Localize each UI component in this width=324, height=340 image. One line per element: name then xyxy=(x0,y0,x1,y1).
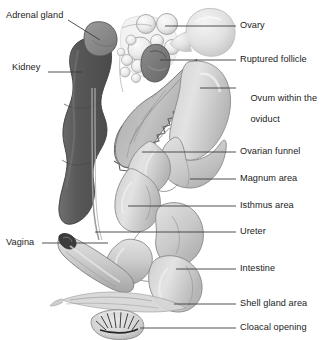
label-intestine: Intestine xyxy=(240,263,275,274)
ruptured-follicle-shape xyxy=(141,44,170,82)
follicle xyxy=(132,74,141,83)
ovum-group xyxy=(170,8,235,56)
label-ovarian-funnel: Ovarian funnel xyxy=(240,146,300,157)
label-isthmus-area: Isthmus area xyxy=(240,200,294,211)
label-magnum-area: Magnum area xyxy=(240,173,297,184)
label-ovum-within-the-oviduct: Ovum within the oviduct xyxy=(240,82,317,135)
ruptured-follicle-group xyxy=(141,44,170,82)
diagram-artwork xyxy=(0,0,324,340)
label-ovum-line-1: Ovum within the xyxy=(250,93,317,103)
follicle xyxy=(117,48,125,56)
mesentery-tip xyxy=(50,299,63,306)
follicle xyxy=(157,14,178,35)
follicle xyxy=(126,35,136,45)
anatomical-diagram: Adrenal gland Kidney Vagina Ovary Ruptur… xyxy=(0,0,324,340)
ovum-sphere xyxy=(186,8,235,56)
label-vagina: Vagina xyxy=(6,237,34,248)
follicle xyxy=(120,67,130,77)
kidney-group xyxy=(59,22,117,225)
label-ruptured-follicle: Ruptured follicle xyxy=(240,54,307,65)
label-cloacal-opening: Cloacal opening xyxy=(240,322,307,333)
follicle xyxy=(122,55,133,66)
label-ovary: Ovary xyxy=(240,20,265,31)
label-ovum-line-2: oviduct xyxy=(250,114,279,124)
label-shell-gland-area: Shell gland area xyxy=(240,298,307,309)
label-adrenal-gland: Adrenal gland xyxy=(6,10,63,21)
label-kidney: Kidney xyxy=(12,62,40,73)
adrenal-gland-shape xyxy=(84,22,117,56)
kidney-shape xyxy=(59,37,112,224)
cloacal-opening-group xyxy=(91,310,144,340)
label-ureter: Ureter xyxy=(240,226,266,237)
